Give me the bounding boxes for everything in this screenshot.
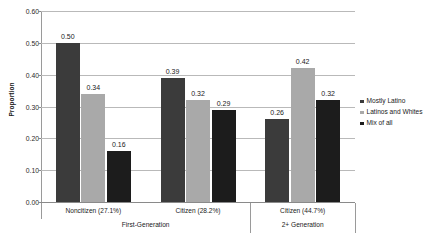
legend: Mostly LatinoLatinos and WhitesMix of al… <box>360 96 427 129</box>
bar <box>56 43 80 202</box>
y-axis-tick <box>38 138 41 139</box>
legend-item[interactable]: Mostly Latino <box>360 96 427 107</box>
bar <box>291 68 315 202</box>
bar-value-label: 0.32 <box>191 90 205 97</box>
x-axis-group-label: 2+ Generation <box>282 221 324 228</box>
group-separator <box>250 203 251 233</box>
bar-value-label: 0.42 <box>296 58 310 65</box>
y-axis-tick <box>38 11 41 12</box>
bar-value-label: 0.32 <box>321 90 335 97</box>
bar <box>161 78 185 202</box>
y-axis-tick-label: 0.60 <box>3 8 39 15</box>
y-axis-tick-label: 0.40 <box>3 71 39 78</box>
legend-swatch-icon <box>360 122 364 126</box>
y-axis-tick-label: 0.10 <box>3 167 39 174</box>
bar-value-label: 0.39 <box>166 68 180 75</box>
bar <box>107 151 131 202</box>
bar-value-label: 0.29 <box>217 100 231 107</box>
x-axis-category-label: Noncitizen (27.1%) <box>65 207 121 214</box>
bar-value-label: 0.26 <box>270 109 284 116</box>
bar <box>212 110 236 202</box>
y-axis-tick-label: 0.50 <box>3 39 39 46</box>
gridline <box>41 43 355 44</box>
y-axis-tick <box>38 43 41 44</box>
legend-label: Mostly Latino <box>367 98 406 105</box>
bar-value-label: 0.34 <box>87 84 101 91</box>
legend-label: Mix of all <box>367 120 393 127</box>
y-axis-tick-label: 0.00 <box>3 199 39 206</box>
bar <box>186 100 210 202</box>
legend-swatch-icon <box>360 100 364 104</box>
x-axis-category-label: Citizen (44.7%) <box>280 207 325 214</box>
gridline <box>41 11 355 12</box>
legend-swatch-icon <box>360 111 364 115</box>
y-axis-tick-label: 0.20 <box>3 135 39 142</box>
y-axis-tick <box>38 170 41 171</box>
bar <box>316 100 340 202</box>
x-axis-category-label: Citizen (28.2%) <box>175 207 220 214</box>
bar <box>265 119 289 202</box>
x-axis-line <box>41 202 355 203</box>
group-separator <box>355 203 356 233</box>
y-axis-tick <box>38 75 41 76</box>
legend-label: Latinos and Whites <box>367 109 423 116</box>
legend-item[interactable]: Latinos and Whites <box>360 107 427 118</box>
y-axis-tick-labels: 0.600.500.400.300.200.100.00 <box>0 0 39 236</box>
legend-item[interactable]: Mix of all <box>360 118 427 129</box>
bar-chart: Proportion 0.600.500.400.300.200.100.00 … <box>0 0 427 236</box>
y-axis-tick-label: 0.30 <box>3 103 39 110</box>
x-axis-group-label: First-Generation <box>122 221 170 228</box>
group-separator <box>41 203 42 219</box>
plot-area: 0.500.340.160.390.320.290.260.420.32 <box>41 11 355 202</box>
y-axis-tick <box>38 107 41 108</box>
bar-value-label: 0.50 <box>61 33 75 40</box>
bar-value-label: 0.16 <box>112 141 126 148</box>
bar <box>81 94 105 202</box>
